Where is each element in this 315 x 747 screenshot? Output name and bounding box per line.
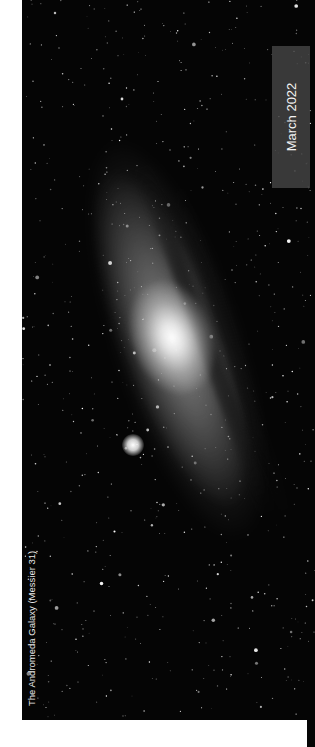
photo-caption: The Andromeda Galaxy (Messier 31) [26,551,37,706]
companion-galaxy-m32 [122,434,144,456]
adjacent-dark-edge [307,720,315,747]
galaxy-photo: March 2022 The Andromeda Galaxy (Messier… [22,0,315,720]
date-label: March 2022 [272,46,310,188]
date-text: March 2022 [284,83,299,152]
